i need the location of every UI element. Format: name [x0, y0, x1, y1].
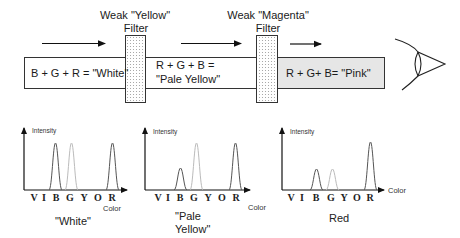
magenta-filter-label-line2: Filter — [256, 22, 280, 34]
magenta-filter-label: Weak "Magenta" — [227, 9, 309, 21]
eye-icon — [395, 39, 445, 90]
chart-pale-yellow-caption-line2: Yellow" — [175, 222, 210, 236]
chart-white-axes — [24, 128, 127, 190]
chart-pale-yellow-ylabel: Intensity — [153, 128, 177, 135]
pale-yellow-equation-line2: "Pale Yellow" — [156, 73, 220, 85]
chart-red-caption: Red — [329, 211, 349, 225]
chart-red-ylabel: Intensity — [290, 128, 314, 135]
chart-white-caption: "White" — [55, 214, 91, 228]
white-equation: B + G + R = "White" — [31, 67, 128, 79]
yellow-filter-label: Weak "Yellow" — [100, 9, 170, 21]
chart-pale-yellow-xlabel: Color — [248, 203, 266, 212]
chart-red-xlabel: Color — [388, 186, 406, 195]
magenta-filter — [257, 36, 278, 103]
pink-equation: R + G+ B= "Pink" — [286, 67, 371, 79]
chart-pale-yellow-caption: "Pale — [175, 209, 201, 223]
yellow-filter-label-line2: Filter — [124, 22, 148, 34]
chart-white-ylabel: Intensity — [32, 127, 56, 134]
yellow-filter — [126, 36, 146, 103]
light-filter-diagram: Weak "Yellow" Filter Weak "Magenta" Filt… — [0, 0, 460, 238]
pale-yellow-equation: R + G + B = — [156, 59, 214, 71]
chart-white-xlabel: Color — [103, 204, 121, 213]
chart-red-axes — [282, 128, 384, 190]
chart-pale-yellow-axes — [145, 128, 250, 190]
